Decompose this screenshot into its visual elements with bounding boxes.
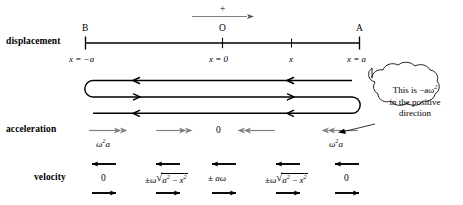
row-label-acceleration: acceleration — [6, 124, 56, 134]
shm-diagram: displacement acceleration velocity + B O… — [0, 0, 463, 205]
velocity-a-exp-4: 2 — [287, 174, 290, 180]
velocity-value-2: ±ωa2 − x2 — [145, 173, 188, 185]
positive-sign-label: + — [220, 5, 225, 15]
velocity-sqrt-2: a2 − x2 — [156, 173, 187, 185]
velocity-x-exp-2: 2 — [183, 174, 186, 180]
velocity-value-1: 0 — [101, 174, 106, 184]
axis-value-b: x = −a — [69, 55, 94, 64]
axis-value-a: x = a — [347, 55, 366, 64]
velocity-x-exp-4: 2 — [303, 174, 306, 180]
acceleration-value-right: ω2a — [329, 138, 343, 149]
velocity-value-4: ±ωa2 − x2 — [265, 173, 308, 185]
axis-value-o: x = 0 — [209, 55, 228, 64]
oscillation-arrowheads — [133, 78, 294, 117]
acceleration-var-right: a — [338, 139, 343, 149]
velocity-a-exp-2: 2 — [167, 174, 170, 180]
callout-line-2: in the positive — [390, 97, 441, 107]
acceleration-value-zero: 0 — [216, 126, 221, 136]
callout-line-1: This is −aω — [393, 85, 435, 95]
axis-point-letter-b: B — [82, 24, 88, 34]
acceleration-value-left: ω2a — [96, 138, 110, 149]
displacement-axis — [86, 37, 361, 50]
axis-point-letter-a: A — [356, 24, 363, 34]
acceleration-var-left: a — [105, 139, 110, 149]
velocity-minus-2: − — [172, 175, 177, 185]
velocity-value-5: 0 — [344, 174, 349, 184]
row-label-velocity: velocity — [34, 172, 66, 182]
positive-direction-arrowhead — [247, 14, 254, 19]
acceleration-arrowheads — [114, 128, 335, 134]
velocity-value-3: ± aω — [208, 174, 226, 183]
callout-text: This is −aω2 in the positive direction — [371, 82, 459, 120]
callout-line-1-exponent: 2 — [434, 84, 437, 90]
axis-value-x: x — [289, 55, 293, 64]
axis-point-letter-o: O — [219, 24, 226, 34]
oscillation-path — [85, 81, 360, 114]
velocity-sqrt-4: a2 − x2 — [276, 173, 307, 185]
callout-line-3: direction — [399, 108, 431, 118]
row-label-displacement: displacement — [6, 36, 61, 46]
velocity-minus-4: − — [292, 175, 297, 185]
